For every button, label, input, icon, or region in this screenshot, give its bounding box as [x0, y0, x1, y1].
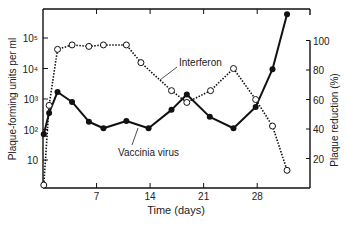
y-left-tick-label: 10 — [27, 155, 39, 166]
vaccinia-virus-marker — [41, 131, 47, 137]
plot-frame — [43, 9, 310, 188]
vaccinia-virus-marker — [69, 99, 75, 105]
vaccinia-virus-marker — [284, 11, 290, 17]
interferon-marker — [41, 182, 47, 188]
interferon-marker — [284, 167, 290, 173]
interferon-marker — [184, 99, 190, 105]
interferon-marker — [100, 42, 106, 48]
vaccinia-virus-marker — [86, 119, 92, 125]
interferon-marker — [230, 66, 236, 72]
x-tick-label: 14 — [145, 191, 157, 202]
interferon-marker — [69, 42, 75, 48]
chart-container: 71421281010²10³10⁴10⁵20406080100 Time (d… — [0, 0, 347, 226]
y-axis-left-label: Plaque-forming units per ml — [7, 38, 18, 160]
annotation-interferon-label: Interferon — [179, 57, 222, 68]
interferon-marker — [253, 97, 259, 103]
y-right-tick-label: 80 — [313, 65, 325, 76]
y-right-tick-label: 40 — [313, 124, 325, 135]
vaccinia-virus-line — [44, 14, 287, 134]
y-right-tick-label: 60 — [313, 95, 325, 106]
y-left-tick-label: 10⁵ — [23, 33, 38, 44]
vaccinia-virus-marker — [270, 66, 276, 72]
y-left-tick-label: 10² — [24, 125, 39, 136]
vaccinia-virus-marker — [253, 104, 259, 110]
x-tick-label: 7 — [94, 191, 100, 202]
vaccinia-virus-marker — [55, 89, 61, 95]
interferon-marker — [138, 60, 144, 66]
x-axis-label: Time (days) — [147, 204, 205, 216]
x-tick-label: 21 — [198, 191, 210, 202]
y-left-tick-label: 10⁴ — [23, 64, 38, 75]
interferon-marker — [123, 42, 129, 48]
annotation-vaccinia-virus: Vaccinia virus — [118, 128, 179, 158]
annotation-vaccinia-virus-label: Vaccinia virus — [118, 147, 179, 158]
x-tick-label: 28 — [252, 191, 264, 202]
annotation-interferon: Interferon — [160, 57, 222, 80]
interferon-marker — [55, 46, 61, 52]
interferon-marker — [208, 88, 214, 94]
vaccinia-virus-marker — [123, 118, 129, 124]
vaccinia-virus-marker — [100, 125, 106, 131]
y-right-tick-label: 100 — [313, 36, 330, 47]
y-right-tick-label: 20 — [313, 154, 325, 165]
vaccinia-virus-marker — [184, 92, 190, 98]
series-layer — [41, 11, 290, 188]
vaccinia-virus-marker — [146, 125, 152, 131]
interferon-marker — [270, 123, 276, 129]
interferon-marker — [169, 88, 175, 94]
vaccinia-virus-marker — [169, 107, 175, 113]
y-axis-right-label: Plaque reduction (%) — [329, 73, 340, 166]
interferon-marker — [46, 102, 52, 108]
vaccinia-virus-marker — [230, 125, 236, 131]
y-left-tick-label: 10³ — [24, 94, 39, 105]
vaccinia-virus-marker — [207, 114, 213, 120]
interferon-marker — [86, 43, 92, 49]
chart-svg: 71421281010²10³10⁴10⁵20406080100 Time (d… — [0, 0, 347, 226]
